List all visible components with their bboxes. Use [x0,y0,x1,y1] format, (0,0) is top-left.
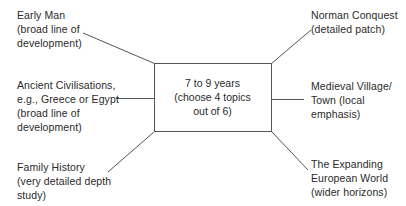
topic-note: (broad line of [17,22,82,36]
topic-note: development) [17,120,119,134]
topic-diagram: 7 to 9 years (choose 4 topics out of 6) … [0,0,406,206]
connector-expanding-european-world [272,132,309,171]
center-line-1: 7 to 9 years [185,76,240,90]
topic-note: (detailed patch) [311,22,398,36]
topic-note: (very detailed depth [17,174,111,188]
topic-note: (wider horizons) [311,185,388,199]
topic-ancient-civilisations: Ancient Civilisations, e.g., Greece or E… [17,78,119,134]
topic-norman-conquest: Norman Conquest (detailed patch) [311,8,398,36]
topic-title: Medieval Village/ [311,79,392,93]
topic-note: development) [17,36,82,50]
center-line-3: out of 6) [193,104,232,118]
topic-expanding-european-world: The Expanding European World (wider hori… [311,157,388,199]
topic-family-history: Family History (very detailed depth stud… [17,160,111,202]
connector-early-man [83,33,155,64]
topic-note: (broad line of [17,106,119,120]
topic-title: European World [311,171,388,185]
topic-note: Town (local [311,93,392,107]
connector-family-history [108,132,155,173]
topic-early-man: Early Man (broad line of development) [17,8,82,50]
center-box-label: 7 to 9 years (choose 4 topics out of 6) [154,63,271,131]
topic-title: Early Man [17,8,82,22]
topic-example: e.g., Greece or Egypt [17,92,119,106]
topic-title: Ancient Civilisations, [17,78,119,92]
connector-norman-conquest [272,30,312,64]
topic-title: The Expanding [311,157,388,171]
topic-title: Norman Conquest [311,8,398,22]
topic-note: study) [17,188,111,202]
topic-note: emphasis) [311,107,392,121]
topic-title: Family History [17,160,111,174]
center-line-2: (choose 4 topics [174,90,250,104]
topic-medieval-village: Medieval Village/ Town (local emphasis) [311,79,392,121]
